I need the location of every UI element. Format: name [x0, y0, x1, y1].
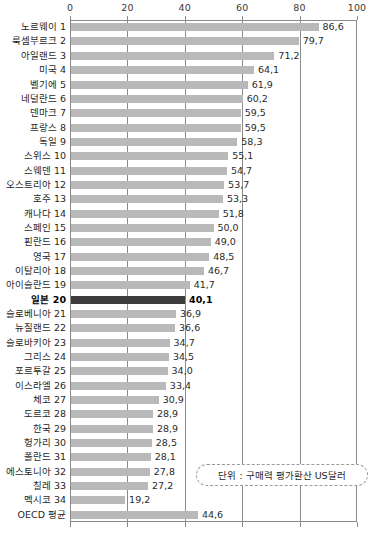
- x-axis-tick-mark-bottom: [127, 522, 128, 527]
- category-label: 벨기에 5: [0, 80, 66, 90]
- bar-value-label: 51,8: [223, 209, 244, 219]
- bar-value-label: 27,2: [152, 481, 173, 491]
- category-label: 룩셈부르크 2: [0, 36, 66, 46]
- bar: [71, 482, 148, 490]
- bar-row: 헝가리 3028,5: [0, 436, 376, 450]
- x-axis-tick-mark-bottom: [185, 522, 186, 527]
- bar-row: 스웨덴 1154,7: [0, 163, 376, 177]
- bar-value-label: 48,5: [213, 252, 234, 262]
- bar-row: 슬로베니아 2136,9: [0, 307, 376, 321]
- category-label: 덴마크 7: [0, 108, 66, 118]
- bar-value-label: 49,0: [215, 237, 236, 247]
- category-label: 헝가리 30: [0, 438, 66, 448]
- bar-row: 뉴질랜드 2236,6: [0, 321, 376, 335]
- bar-value-label: 33,4: [170, 381, 191, 391]
- bar: [71, 396, 159, 404]
- category-label: 캐나다 14: [0, 209, 66, 219]
- bar: [71, 224, 214, 232]
- bar-value-label: 19,2: [129, 495, 150, 505]
- bar: [71, 37, 299, 45]
- x-axis-tick-label: 80: [293, 2, 306, 13]
- category-label: 칠레 33: [0, 481, 66, 491]
- bar: [71, 95, 243, 103]
- bar: [71, 152, 228, 160]
- bar-value-label: 27,8: [154, 467, 175, 477]
- bar: [71, 23, 319, 31]
- x-axis-tick-label: 100: [348, 2, 367, 13]
- bar-row: 아일랜드 371,2: [0, 49, 376, 63]
- bar-value-label: 30,9: [163, 395, 184, 405]
- category-label: 노르웨이 1: [0, 22, 66, 32]
- bar-row: 핀란드 1649,0: [0, 235, 376, 249]
- bar: [71, 181, 224, 189]
- category-label: 네덜란드 6: [0, 94, 66, 104]
- category-label: 미국 4: [0, 65, 66, 75]
- bar-value-label: 86,6: [323, 22, 344, 32]
- category-label: 핀란드 16: [0, 237, 66, 247]
- category-label: 영국 17: [0, 252, 66, 262]
- x-axis-tick-label: 20: [121, 2, 134, 13]
- bar: [71, 253, 209, 261]
- bar-value-label: 54,7: [231, 166, 252, 176]
- bar-row: 포르투갈 2534,0: [0, 364, 376, 378]
- bar: [71, 511, 198, 519]
- bar-value-label: 40,1: [189, 295, 212, 305]
- bar: [71, 138, 237, 146]
- bar: [71, 66, 254, 74]
- category-label: 체코 27: [0, 395, 66, 405]
- bar: [71, 425, 153, 433]
- bar-row: 프랑스 859,5: [0, 120, 376, 134]
- bar-value-label: 58,3: [241, 137, 262, 147]
- category-label: 아일랜드 3: [0, 51, 66, 61]
- bar-row: 미국 464,1: [0, 63, 376, 77]
- bar: [71, 124, 241, 132]
- bar-value-label: 28,9: [157, 424, 178, 434]
- bar-value-label: 59,5: [245, 108, 266, 118]
- bar: [71, 267, 204, 275]
- bar-value-label: 53,3: [227, 194, 248, 204]
- bar-row-highlighted: 일본 2040,1: [0, 293, 376, 307]
- x-axis-tick-mark-bottom: [242, 522, 243, 527]
- bar-value-label: 60,2: [247, 94, 268, 104]
- bar: [71, 353, 169, 361]
- unit-note-text: 단위 : 구매력 평가환산 US달러: [218, 468, 345, 482]
- bar-value-label: 79,7: [303, 36, 324, 46]
- bar-row: 룩셈부르크 279,7: [0, 34, 376, 48]
- category-label: 도르코 28: [0, 409, 66, 419]
- bar-value-label: 71,2: [278, 51, 299, 61]
- category-label: 슬로베니아 21: [0, 309, 66, 319]
- x-axis-tick-label: 40: [179, 2, 192, 13]
- bar: [71, 496, 125, 504]
- bar: [71, 453, 151, 461]
- bar: [71, 410, 153, 418]
- bar-value-label: 55,1: [232, 151, 253, 161]
- bar-value-label: 44,6: [202, 510, 223, 520]
- bar: [71, 210, 219, 218]
- bar: [71, 238, 211, 246]
- bar: [71, 468, 150, 476]
- unit-note-callout: 단위 : 구매력 평가환산 US달러: [196, 464, 368, 486]
- x-axis-tick-label: 0: [67, 2, 73, 13]
- bar: [71, 81, 248, 89]
- bar: [71, 339, 170, 347]
- bar: [71, 281, 190, 289]
- bar-value-label: 46,7: [208, 266, 229, 276]
- bar-row: 체코 2730,9: [0, 393, 376, 407]
- bar: [71, 109, 241, 117]
- bar: [71, 52, 274, 60]
- bar-value-label: 59,5: [245, 123, 266, 133]
- bar-row: 이탈리아 1846,7: [0, 264, 376, 278]
- bar-rows: 노르웨이 186,6룩셈부르크 279,7아일랜드 371,2미국 464,1벨…: [0, 20, 376, 522]
- bar-row: 독일 958,3: [0, 135, 376, 149]
- category-label: 아이슬란드 19: [0, 280, 66, 290]
- bar-value-label: 36,6: [179, 323, 200, 333]
- bar: [71, 367, 168, 375]
- bar: [71, 439, 152, 447]
- bar-value-label: 64,1: [258, 65, 279, 75]
- bar: [71, 167, 227, 175]
- category-label: 한국 29: [0, 424, 66, 434]
- bar-row: 스위스 1055,1: [0, 149, 376, 163]
- category-label: 스페인 15: [0, 223, 66, 233]
- bar-row: 오스트리아 1253,7: [0, 178, 376, 192]
- bar: [71, 310, 176, 318]
